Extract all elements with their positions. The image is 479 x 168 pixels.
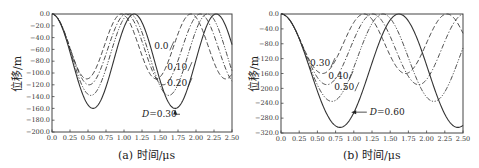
x-tick-label: 0.75 <box>328 135 342 143</box>
caption-a: (a) 时间/μs <box>118 146 175 162</box>
x-tick-label: 0.50 <box>310 135 324 143</box>
chart-panel-a: 0.00.250.500.751.001.251.501.752.002.252… <box>0 0 240 168</box>
label-leader <box>349 71 353 80</box>
x-tick-label: 1.00 <box>347 135 361 143</box>
annotation-label: 0.30 <box>310 58 330 68</box>
y-tick-label: −320.0 <box>255 129 279 137</box>
chart-panel-b: 0.00.250.500.751.001.251.501.752.002.252… <box>239 0 479 168</box>
y-tick-label: −40.0 <box>259 25 279 33</box>
y-tick-label: −180.0 <box>26 116 50 124</box>
y-tick-label: −80.0 <box>259 40 279 48</box>
y-tick-label: −240.0 <box>255 99 279 107</box>
annotation-label: D=0.30 <box>141 109 177 119</box>
y-tick-label: −140.0 <box>26 93 50 101</box>
x-tick-label: 2.50 <box>225 134 239 142</box>
y-tick-label: −80.0 <box>30 57 50 65</box>
x-tick-label: 2.25 <box>438 135 452 143</box>
x-tick-label: 1.25 <box>135 134 149 142</box>
series-line-0.10 <box>52 14 232 85</box>
x-tick-label: 1.50 <box>153 134 167 142</box>
y-tick-label: −100.0 <box>26 69 50 77</box>
x-tick-label: 2.50 <box>456 135 470 143</box>
annotation-label: 0.20 <box>167 78 187 88</box>
label-leader <box>188 62 192 71</box>
y-tick-label: −200.0 <box>26 128 50 136</box>
annotation-label: 0.50 <box>334 82 354 92</box>
plot-a: 0.00.250.500.751.001.251.501.752.002.252… <box>0 0 240 168</box>
y-axis-label-b: 位移/m <box>245 56 261 92</box>
x-tick-label: 0.75 <box>99 134 113 142</box>
y-tick-label: −120.0 <box>26 81 50 89</box>
series-line-D0.30 <box>52 14 232 108</box>
label-leader <box>355 82 359 91</box>
label-leader <box>170 41 174 50</box>
x-tick-label: 0.25 <box>292 135 306 143</box>
series-line-0.40 <box>281 14 463 85</box>
x-tick-label: 0.50 <box>81 134 95 142</box>
y-tick-label: −20.0 <box>30 22 50 30</box>
x-tick-label: 1.00 <box>117 134 131 142</box>
y-tick-label: 0.0 <box>40 10 50 18</box>
annotation-label: 0.0 <box>154 41 169 51</box>
y-tick-label: −60.0 <box>30 46 50 54</box>
x-tick-label: 1.75 <box>401 135 415 143</box>
y-tick-label: −160.0 <box>26 105 50 113</box>
y-tick-label: −280.0 <box>255 114 279 122</box>
x-tick-label: 1.50 <box>383 135 397 143</box>
series-group <box>52 14 232 108</box>
x-tick-label: 1.75 <box>171 134 185 142</box>
x-tick-label: 0.25 <box>63 134 77 142</box>
annotation-label: 0.40 <box>328 71 348 81</box>
y-tick-label: 0.0 <box>269 10 279 18</box>
x-tick-label: 2.25 <box>207 134 221 142</box>
x-tick-label: 2.00 <box>419 135 433 143</box>
y-tick-label: −40.0 <box>30 34 50 42</box>
y-axis-label-a: 位移/m <box>8 56 24 92</box>
plot-b: 0.00.250.500.751.001.251.501.752.002.252… <box>239 0 479 168</box>
caption-b: (b) 时间/μs <box>343 146 401 162</box>
annotation-label: D=0.60 <box>369 107 405 117</box>
x-tick-label: 1.25 <box>365 135 379 143</box>
annotation-label: 0.10 <box>167 62 187 72</box>
x-tick-label: 2.00 <box>189 134 203 142</box>
series-line-0.0 <box>52 14 232 79</box>
